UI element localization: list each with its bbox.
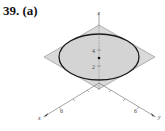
- 3d-figure: z 4 2 6 6 x y: [0, 0, 165, 131]
- x-tick-label: 6: [60, 108, 63, 114]
- y-axis-label: y: [157, 114, 161, 120]
- z-tick-label-4: 4: [92, 48, 95, 54]
- y-axis: [99, 83, 154, 116]
- z-tick-label-2: 2: [92, 64, 95, 70]
- center-point: [98, 57, 101, 60]
- z-axis-label: z: [97, 10, 101, 16]
- x-axis: [45, 83, 99, 116]
- x-arrow-icon: [43, 113, 48, 117]
- y-arrow-icon: [151, 113, 156, 117]
- y-tick-label: 6: [134, 108, 137, 114]
- x-axis-label: x: [37, 115, 41, 121]
